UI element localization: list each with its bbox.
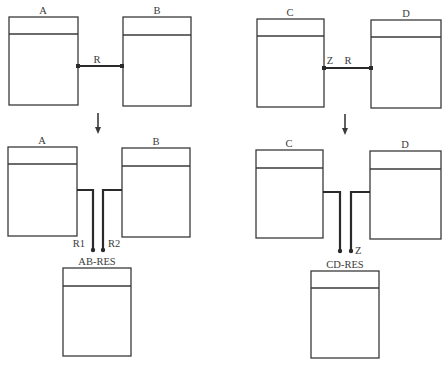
entity-ab-res-label: AB-RES	[78, 256, 116, 267]
down-arrow-icon	[342, 114, 348, 135]
entity-d-bottom-label: D	[401, 139, 409, 150]
entity-d-bottom: D	[370, 139, 441, 239]
entity-b-bottom-label: B	[152, 136, 159, 147]
relationship-r-label: R	[93, 54, 100, 65]
relationship-z-label-bottom: Z	[355, 245, 361, 256]
er-transformation-diagram: A B R C D	[0, 0, 443, 365]
entity-c-top-label: C	[286, 7, 293, 18]
entity-ab-res: AB-RES	[63, 256, 131, 356]
relationship-r-top-left: R	[76, 54, 124, 68]
relationship-r2-label: R2	[108, 238, 120, 249]
relationship-r-label: R	[344, 55, 351, 66]
entity-c-top: C	[257, 7, 324, 107]
relationship-r-top-right: Z R	[322, 55, 373, 70]
top-left-group: A B R	[9, 5, 191, 134]
bottom-right-group: C D Z CD-RES	[256, 138, 441, 358]
entity-c-bottom-label: C	[285, 138, 292, 149]
relationship-c-link	[323, 192, 342, 253]
relationship-r1-label: R1	[73, 238, 85, 249]
entity-b-top-label: B	[153, 5, 160, 16]
top-right-group: C D Z R	[257, 7, 441, 135]
relationship-z-label: Z	[327, 55, 333, 66]
entity-a-bottom: A	[8, 135, 77, 236]
entity-a-top-label: A	[39, 5, 47, 16]
entity-b-top: B	[123, 5, 191, 106]
down-arrow-icon	[95, 113, 101, 134]
entity-a-bottom-label: A	[38, 135, 46, 146]
entity-cd-res-label: CD-RES	[326, 259, 364, 270]
bottom-left-group: A B R1 R2 AB-RES	[8, 135, 190, 356]
entity-a-top: A	[9, 5, 78, 105]
entity-b-bottom: B	[122, 136, 190, 237]
relationship-z: Z	[349, 192, 370, 256]
entity-d-top-label: D	[402, 8, 410, 19]
relationship-r2: R2	[101, 190, 122, 252]
entity-c-bottom: C	[256, 138, 323, 238]
entity-cd-res: CD-RES	[311, 259, 379, 358]
entity-d-top: D	[371, 8, 441, 108]
